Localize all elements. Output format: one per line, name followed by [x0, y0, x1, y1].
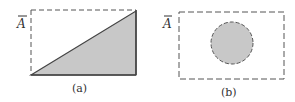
- caption-b: (b): [221, 86, 237, 99]
- set-label-a: A: [16, 17, 26, 31]
- set-circle: [211, 22, 253, 64]
- venn-diagram-figure: A (a) A (b): [0, 0, 295, 102]
- shaded-triangle: [31, 11, 136, 75]
- set-label-b: A: [162, 17, 172, 31]
- figure-b: A (b): [162, 12, 284, 99]
- caption-a: (a): [72, 82, 87, 95]
- figure-a: A (a): [16, 10, 136, 95]
